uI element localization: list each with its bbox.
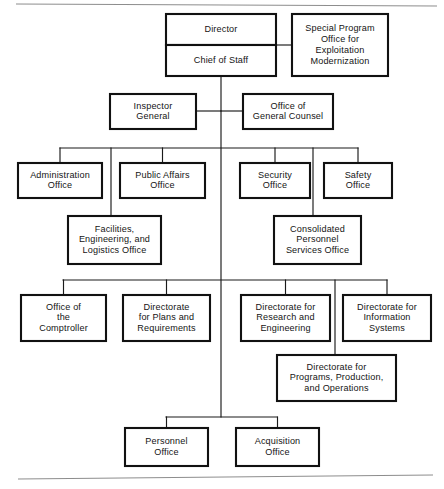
org-node-label-inspector-general: General [136,111,169,121]
org-node-label-directorate-plans: Requirements [137,323,196,333]
org-node-label-special-program: Exploitation [316,45,365,55]
org-node-security-office[interactable]: SecurityOffice [240,163,310,198]
org-node-directorate-plans[interactable]: Directoratefor Plans andRequirements [123,295,210,341]
org-node-label-consolidated-personnel: Consolidated [290,224,345,234]
org-node-label-director: Director [204,24,237,34]
org-node-label-directorate-programs: Directorate for [307,362,367,372]
org-node-label-inspector-general: Inspector [134,101,173,111]
org-node-label-office-comptroller: Office of [46,302,81,312]
org-node-special-program[interactable]: Special ProgramOffice forExploitationMod… [292,14,388,76]
org-node-label-directorate-research: Directorate for [256,302,316,312]
org-node-label-office-comptroller: the [57,312,70,322]
org-node-directorate-programs[interactable]: Directorate forPrograms, Production,and … [277,355,396,401]
org-node-label-directorate-programs: and Operations [304,383,369,393]
org-node-label-personnel-office: Office [154,447,179,457]
org-node-label-public-affairs-office: Public Affairs [135,170,190,180]
org-node-label-special-program: Office for [321,34,359,44]
org-node-label-office-comptroller: Comptroller [39,323,88,333]
org-node-administration-office[interactable]: AdministrationOffice [18,163,102,198]
org-node-label-chief-of-staff: Chief of Staff [194,55,249,65]
org-node-inspector-general[interactable]: InspectorGeneral [110,94,196,129]
org-node-label-facilities-office: Logistics Office [83,245,147,255]
org-node-facilities-office[interactable]: Facilities,Engineering, andLogistics Off… [68,216,161,264]
org-node-label-directorate-plans: for Plans and [139,312,195,322]
org-node-label-general-counsel: Office of [270,101,305,111]
org-node-label-security-office: Security [258,170,292,180]
org-node-public-affairs-office[interactable]: Public AffairsOffice [120,163,205,198]
org-node-label-personnel-office: Personnel [145,436,187,446]
org-node-chief-of-staff[interactable]: Chief of Staff [166,45,276,76]
top-rule [16,4,437,6]
org-node-label-directorate-information: Information [363,312,410,322]
org-node-label-directorate-plans: Directorate [143,302,189,312]
org-node-label-directorate-research: Engineering [260,323,310,333]
org-chart-canvas: DirectorChief of StaffSpecial ProgramOff… [0,0,444,489]
org-node-label-special-program: Modernization [310,56,369,66]
org-node-label-acquisition-office: Office [265,447,290,457]
org-node-consolidated-personnel[interactable]: ConsolidatedPersonnelServices Office [274,216,361,264]
org-node-label-directorate-programs: Programs, Production, [290,372,384,382]
org-node-general-counsel[interactable]: Office ofGeneral Counsel [243,94,333,129]
org-node-label-consolidated-personnel: Services Office [286,245,349,255]
org-node-label-acquisition-office: Acquisition [255,436,301,446]
org-node-label-safety-office: Safety [345,170,372,180]
org-node-label-directorate-information: Systems [369,323,405,333]
org-node-directorate-information[interactable]: Directorate forInformationSystems [343,295,431,341]
org-node-safety-office[interactable]: SafetyOffice [324,163,392,198]
org-node-label-general-counsel: General Counsel [253,111,324,121]
org-node-label-special-program: Special Program [305,23,374,33]
org-node-label-administration-office: Office [48,180,73,190]
org-chart-root: DirectorChief of StaffSpecial ProgramOff… [0,0,444,489]
org-node-group: DirectorChief of StaffSpecial ProgramOff… [18,14,431,466]
org-node-director[interactable]: Director [166,14,276,45]
org-node-label-consolidated-personnel: Personnel [296,234,338,244]
org-node-personnel-office[interactable]: PersonnelOffice [125,428,208,466]
org-node-label-administration-office: Administration [30,170,90,180]
bottom-rule [18,475,433,479]
org-node-label-facilities-office: Facilities, [95,224,135,234]
org-node-office-comptroller[interactable]: Office oftheComptroller [21,295,106,341]
org-node-acquisition-office[interactable]: AcquisitionOffice [236,428,319,466]
org-node-label-security-office: Office [263,180,288,190]
org-node-label-directorate-research: Research and [256,312,314,322]
org-node-label-facilities-office: Engineering, and [79,234,150,244]
org-node-label-public-affairs-office: Office [150,180,175,190]
org-node-label-directorate-information: Directorate for [357,302,417,312]
org-node-label-safety-office: Office [346,180,371,190]
org-node-directorate-research[interactable]: Directorate forResearch andEngineering [241,295,330,341]
